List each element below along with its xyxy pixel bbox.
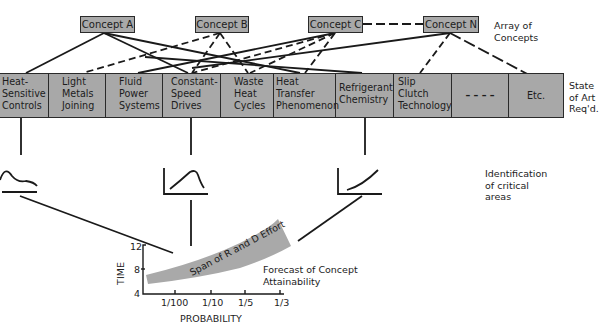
state-item-refrigerant-chemistry: Refrigerant Chemistry (336, 74, 394, 117)
mini-curve-heat-sensitive (0, 171, 37, 192)
state-item-light-metals-joining: Light Metals Joining (49, 74, 106, 117)
x-tick-1-10: 1/10 (202, 297, 223, 308)
concept-n-box: Concept N (423, 16, 479, 33)
identification-label: Identification of critical areas (485, 168, 547, 203)
concept-c-box: Concept C (308, 16, 363, 33)
state-item-heat-transfer-phenomenon: Heat Transfer Phenomenon (274, 74, 336, 117)
concept-diagram: Span of R and D Effort Concept A Concept… (0, 0, 609, 333)
array-of-concepts-label: Array of Concepts (494, 20, 538, 43)
state-item-heat-sensitive-controls: Heat- Sensitive Controls (0, 74, 49, 117)
x-tick-1-5: 1/5 (238, 297, 253, 308)
y-tick-12: 12 (130, 241, 142, 252)
state-item-fluid-power-systems: Fluid Power Systems (106, 74, 163, 117)
mini-curve-constant-speed (164, 168, 208, 194)
concept-b-label: Concept B (196, 19, 247, 30)
state-item-etc: Etc. (509, 74, 564, 117)
x-tick-1-3: 1/3 (274, 297, 289, 308)
concept-a-box: Concept A (80, 16, 135, 33)
concept-b-box: Concept B (195, 16, 249, 33)
state-item-constant-speed-drives: Constant- Speed Drives (163, 74, 221, 117)
state-of-art-label: State of Art Req'd. (569, 80, 599, 115)
state-item-waste-heat-cycles: Waste Heat Cycles (221, 74, 274, 117)
y-tick-4: 4 (134, 288, 140, 299)
state-item-slip-clutch-technology: Slip Clutch Technology (394, 74, 452, 117)
concept-c-label: Concept C (310, 19, 362, 30)
state-of-art-row: Heat- Sensitive Controls Light Metals Jo… (0, 73, 564, 118)
x-tick-1-100: 1/100 (161, 297, 188, 308)
state-item-placeholder-dashes: – – – – (452, 74, 509, 117)
concept-n-label: Concept N (425, 19, 477, 30)
x-axis-label: PROBABILITY (180, 313, 242, 324)
mini-curve-refrigerant (338, 168, 382, 194)
y-tick-8: 8 (134, 264, 140, 275)
forecast-label: Forecast of Concept Attainability (263, 264, 358, 287)
y-axis-label: TIME (115, 262, 126, 285)
concept-a-label: Concept A (82, 19, 133, 30)
